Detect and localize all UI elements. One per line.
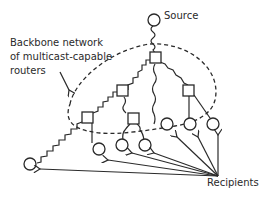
link-leftmid-center: [123, 97, 126, 113]
backbone-label-line3: routers: [10, 64, 46, 78]
recipient-h6-icon: [184, 118, 196, 130]
source-label: Source: [164, 9, 198, 23]
recipient-h2-icon: [93, 143, 105, 155]
router-center-icon: [128, 113, 139, 124]
router-left-mid-icon: [117, 85, 128, 96]
recipient-h4-icon: [139, 139, 151, 151]
multicast-diagram: [0, 0, 261, 198]
link-farleft-h1: [37, 122, 82, 163]
router-far-left-icon: [82, 112, 93, 123]
link-center-h3: [123, 124, 130, 140]
link-leftmid-farleft: [93, 92, 117, 113]
link-source-top: [151, 26, 155, 53]
router-top-icon: [150, 52, 161, 63]
backbone-pointer-arrow: [60, 72, 69, 90]
source-host-icon: [148, 14, 160, 26]
router-right-icon: [183, 85, 194, 96]
link-top-leftmid: [128, 60, 150, 90]
link-center-h4: [137, 124, 144, 140]
link-top-right: [160, 62, 188, 85]
recipients-label: Recipients: [207, 176, 259, 190]
recipient-h1-icon: [24, 158, 36, 170]
recipient-h7-icon: [207, 118, 219, 130]
backbone-label-line2: of multicast-capable: [10, 50, 112, 64]
backbone-label-line1: Backbone network: [10, 36, 103, 50]
link-right-h7: [194, 95, 210, 118]
recipient-h3-icon: [116, 139, 128, 151]
link-top-center-branch: [153, 64, 157, 124]
recipient-h5-icon: [161, 118, 173, 130]
